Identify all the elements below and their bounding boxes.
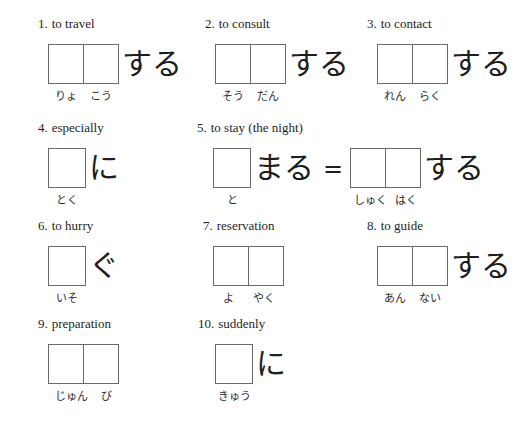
furigana: よ bbox=[223, 289, 234, 305]
furigana: だん bbox=[257, 87, 279, 103]
item-number: 3. bbox=[367, 16, 377, 31]
item-meaning: suddenly bbox=[218, 316, 265, 331]
okurigana-suffix: する bbox=[122, 49, 182, 79]
furigana: れん bbox=[384, 87, 406, 103]
item-meaning: to consult bbox=[219, 16, 270, 31]
furigana: そう bbox=[222, 87, 244, 103]
furigana: はく bbox=[395, 191, 417, 207]
item-label: 10.suddenly bbox=[198, 316, 286, 331]
item-number: 2. bbox=[205, 16, 215, 31]
box-column: よ やく bbox=[213, 246, 284, 305]
box-column: しゅく はく bbox=[350, 148, 421, 207]
answer-row: と まる = しゅく はく する bbox=[213, 148, 484, 207]
worksheet-item-5: 5.to stay (the night) と まる = しゅく bbox=[197, 120, 484, 207]
furigana: らく bbox=[419, 87, 441, 103]
kanji-answer-box bbox=[385, 148, 421, 188]
item-meaning: to contact bbox=[381, 16, 432, 31]
item-label: 1.to travel bbox=[38, 16, 182, 31]
furigana: こう bbox=[90, 87, 112, 103]
answer-row: じゅん び bbox=[48, 344, 119, 403]
furigana-readings: と bbox=[213, 191, 251, 207]
worksheet-item-8: 8.to guide あん ない する bbox=[367, 218, 511, 305]
kanji-answer-boxes bbox=[48, 246, 86, 286]
item-label: 6.to hurry bbox=[38, 218, 119, 233]
item-meaning: to stay (the night) bbox=[211, 120, 303, 135]
kanji-answer-box bbox=[48, 44, 84, 84]
kanji-answer-boxes bbox=[350, 148, 421, 188]
worksheet-item-1: 1.to travel りょ こう する bbox=[38, 16, 182, 103]
kanji-answer-boxes bbox=[48, 148, 86, 188]
furigana: りょ bbox=[55, 87, 77, 103]
kanji-answer-boxes bbox=[215, 44, 286, 84]
answer-row: きゅう に bbox=[215, 344, 286, 403]
worksheet-item-3: 3.to contact れん らく する bbox=[367, 16, 511, 103]
okurigana-suffix: する bbox=[289, 49, 349, 79]
furigana-readings: じゅん び bbox=[48, 387, 119, 403]
answer-row: そう だん する bbox=[215, 44, 349, 103]
item-number: 6. bbox=[38, 218, 48, 233]
kanji-answer-boxes bbox=[377, 44, 448, 84]
kanji-answer-box bbox=[213, 246, 249, 286]
box-column: あん ない bbox=[377, 246, 448, 305]
item-meaning: especially bbox=[52, 120, 104, 135]
equals-sign: = bbox=[323, 157, 343, 181]
item-meaning: reservation bbox=[217, 218, 275, 233]
kanji-answer-boxes bbox=[213, 148, 251, 188]
kanji-answer-box bbox=[48, 246, 86, 286]
worksheet-item-9: 9.preparation じゅん び bbox=[38, 316, 119, 403]
kanji-answer-box bbox=[48, 344, 84, 384]
furigana: あん bbox=[384, 289, 406, 305]
item-number: 5. bbox=[197, 120, 207, 135]
item-number: 10. bbox=[198, 316, 214, 331]
furigana-readings: よ やく bbox=[213, 289, 284, 305]
item-label: 3.to contact bbox=[367, 16, 511, 31]
furigana-readings: しゅく はく bbox=[350, 191, 421, 207]
item-label: 2.to consult bbox=[205, 16, 349, 31]
okurigana-suffix: する bbox=[451, 251, 511, 281]
okurigana-suffix: する bbox=[451, 49, 511, 79]
okurigana-suffix: に bbox=[256, 349, 286, 379]
box-column: きゅう bbox=[215, 344, 253, 403]
answer-row: りょ こう する bbox=[48, 44, 182, 103]
furigana: と bbox=[227, 191, 238, 207]
item-meaning: preparation bbox=[52, 316, 111, 331]
furigana-readings: そう だん bbox=[215, 87, 286, 103]
furigana-readings: りょ こう bbox=[48, 87, 119, 103]
kanji-answer-boxes bbox=[48, 44, 119, 84]
box-column: りょ こう bbox=[48, 44, 119, 103]
furigana: び bbox=[101, 387, 112, 403]
furigana-readings: きゅう bbox=[215, 387, 253, 403]
answer-row: とく に bbox=[48, 148, 119, 207]
furigana: きゅう bbox=[218, 387, 251, 403]
worksheet-item-7: 7.reservation よ やく bbox=[203, 218, 284, 305]
kanji-answer-box bbox=[350, 148, 386, 188]
kanji-answer-boxes bbox=[213, 246, 284, 286]
kanji-answer-boxes bbox=[215, 344, 253, 384]
worksheet-item-2: 2.to consult そう だん する bbox=[205, 16, 349, 103]
item-number: 8. bbox=[367, 218, 377, 233]
kanji-answer-box bbox=[248, 246, 284, 286]
kanji-worksheet: 1.to travel りょ こう する 2.to consult bbox=[0, 0, 532, 422]
box-column: とく bbox=[48, 148, 86, 207]
furigana-readings: れん らく bbox=[377, 87, 448, 103]
kanji-answer-box bbox=[213, 148, 251, 188]
item-label: 7.reservation bbox=[203, 218, 284, 233]
item-label: 5.to stay (the night) bbox=[197, 120, 484, 135]
item-label: 9.preparation bbox=[38, 316, 119, 331]
okurigana-suffix: まる bbox=[254, 153, 314, 183]
kanji-answer-box bbox=[377, 44, 413, 84]
item-meaning: to guide bbox=[381, 218, 423, 233]
answer-row: よ やく bbox=[213, 246, 284, 305]
item-number: 7. bbox=[203, 218, 213, 233]
furigana-readings: とく bbox=[48, 191, 86, 207]
item-number: 1. bbox=[38, 16, 48, 31]
kanji-answer-box bbox=[83, 44, 119, 84]
kanji-answer-box bbox=[377, 246, 413, 286]
furigana: いそ bbox=[56, 289, 78, 305]
item-number: 9. bbox=[38, 316, 48, 331]
okurigana-suffix: する bbox=[424, 153, 484, 183]
item-meaning: to travel bbox=[52, 16, 95, 31]
worksheet-item-6: 6.to hurry いそ ぐ bbox=[38, 218, 119, 305]
box-column: れん らく bbox=[377, 44, 448, 103]
furigana: ない bbox=[419, 289, 441, 305]
